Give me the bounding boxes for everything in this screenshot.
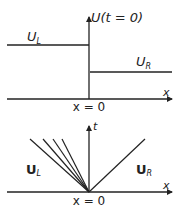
initial-condition-plot: U(t = 0) UL UR x x = 0 xyxy=(7,10,172,114)
x-axis-label: x xyxy=(162,179,170,192)
riemann-problem-diagram: U(t = 0) UL UR x x = 0 t UL UR x x = 0 xyxy=(0,0,181,216)
u-axis-label: U(t = 0) xyxy=(91,10,143,25)
x-axis-label: x xyxy=(162,86,170,99)
right-state-label: UR xyxy=(136,162,152,178)
left-state-label: UL xyxy=(26,162,41,178)
origin-label: x = 0 xyxy=(73,100,105,114)
right-state-label: UR xyxy=(136,54,151,71)
t-axis-label: t xyxy=(93,120,98,133)
left-state-label: UL xyxy=(27,29,41,46)
rarefaction-fan xyxy=(30,139,89,192)
wave-structure-plot: t UL UR x x = 0 xyxy=(7,120,172,208)
origin-label: x = 0 xyxy=(73,194,105,208)
